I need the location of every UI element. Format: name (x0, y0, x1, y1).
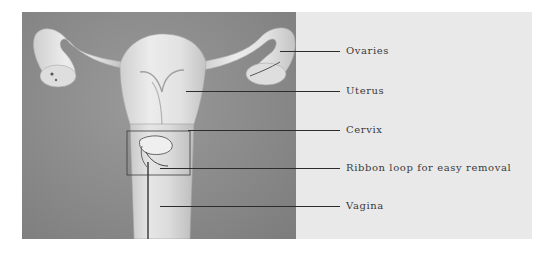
label-uterus: Uterus (346, 85, 384, 97)
ovaries-leader-line (280, 51, 340, 52)
vagina-leader-line (160, 206, 340, 207)
uterus-leader-line (186, 91, 340, 92)
label-ribbon-loop: Ribbon loop for easy removal (346, 162, 511, 174)
anatomy-illustration (22, 12, 296, 239)
label-ovaries: Ovaries (346, 45, 389, 57)
ribbon-loop (139, 136, 172, 155)
cervix-leader-line (188, 130, 340, 131)
right-ovary (246, 63, 286, 85)
label-cervix: Cervix (346, 124, 382, 136)
ribbon-leader-line (160, 168, 340, 169)
uterus-body (120, 34, 206, 130)
label-vagina: Vagina (346, 200, 384, 212)
diagram-canvas: Ovaries Uterus Cervix Ribbon loop for ea… (0, 0, 550, 254)
reproductive-organs-drawing (22, 12, 296, 239)
left-ovary (40, 65, 76, 87)
